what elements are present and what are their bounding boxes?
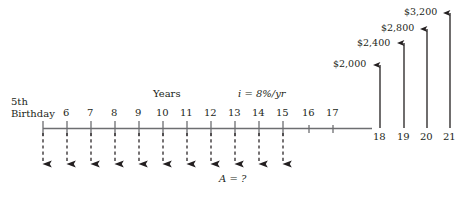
origin-label-line1: 5th [11, 96, 28, 108]
year-label-19: 19 [397, 131, 410, 142]
origin-label-line2: Birthday [11, 108, 55, 120]
year-label-21: 21 [443, 131, 456, 142]
unknown-annuity-label: A = ? [219, 173, 246, 185]
year-label-11: 11 [180, 107, 193, 118]
year-label-10: 10 [156, 107, 169, 118]
inflow-amount-18: $2,000 [333, 58, 366, 69]
axis-label-years: Years [153, 88, 181, 100]
interest-rate-label: i = 8%/yr [238, 88, 286, 100]
year-label-8: 8 [111, 107, 117, 118]
year-label-6: 6 [63, 107, 69, 118]
inflow-amount-20: $2,800 [381, 22, 414, 33]
year-label-16: 16 [302, 107, 315, 118]
inflow-amount-19: $2,400 [357, 37, 390, 48]
year-label-7: 7 [87, 107, 93, 118]
outflow-arrow-group [43, 133, 283, 164]
year-label-17: 17 [326, 107, 339, 118]
year-label-20: 20 [420, 131, 433, 142]
year-label-15: 15 [276, 107, 289, 118]
year-label-12: 12 [204, 107, 217, 118]
inflow-amount-21: $3,200 [404, 6, 437, 17]
year-label-14: 14 [252, 107, 265, 118]
cash-flow-diagram: 5th Birthday Years i = 8%/yr A = ? 6 7 8… [0, 0, 456, 200]
year-label-13: 13 [228, 107, 241, 118]
year-label-18: 18 [373, 131, 386, 142]
year-label-9: 9 [135, 107, 141, 118]
